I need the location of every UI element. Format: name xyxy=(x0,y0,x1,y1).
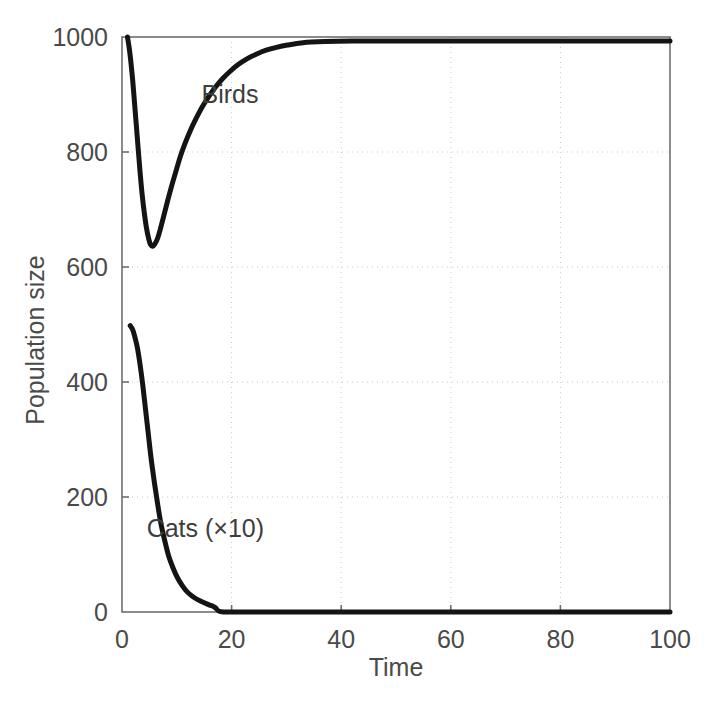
x-tick-label: 80 xyxy=(546,625,574,653)
chart-figure: 02004006008001000020406080100 BirdsCats … xyxy=(0,0,715,708)
y-tick-label: 600 xyxy=(66,253,108,281)
y-tick-label: 0 xyxy=(94,598,108,626)
series-label-birds: Birds xyxy=(201,80,258,108)
x-tick-label: 40 xyxy=(327,625,355,653)
population-dynamics-line-chart: 02004006008001000020406080100 BirdsCats … xyxy=(0,0,715,708)
y-axis-title: Population size xyxy=(21,255,49,425)
y-tick-label: 1000 xyxy=(52,23,108,51)
series-label-cats-10: Cats (×10) xyxy=(147,514,264,542)
y-tick-label: 200 xyxy=(66,483,108,511)
x-tick-label: 60 xyxy=(437,625,465,653)
x-tick-label: 100 xyxy=(649,625,691,653)
y-tick-label: 800 xyxy=(66,138,108,166)
x-tick-label: 20 xyxy=(218,625,246,653)
x-axis-title: Time xyxy=(369,653,424,681)
y-tick-label: 400 xyxy=(66,368,108,396)
x-tick-label: 0 xyxy=(115,625,129,653)
